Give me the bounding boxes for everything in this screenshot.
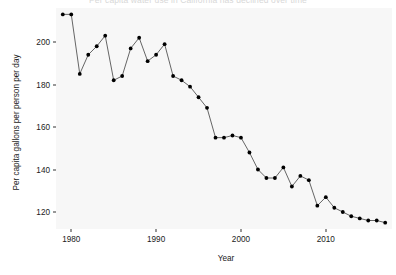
data-point [205, 106, 209, 110]
series-points [61, 12, 387, 224]
data-point [307, 178, 311, 182]
data-point [95, 44, 99, 48]
x-axis-title: Year [56, 254, 396, 263]
data-point [290, 185, 294, 189]
data-point [214, 136, 218, 140]
data-point [315, 204, 319, 208]
data-point [281, 165, 285, 169]
data-point [341, 210, 345, 214]
data-point [256, 168, 260, 172]
data-point [129, 46, 133, 50]
data-point [103, 34, 107, 38]
data-point [324, 195, 328, 199]
data-point [69, 12, 73, 16]
y-axis-tick-labels: 120140160180200 [18, 0, 50, 275]
data-point [383, 221, 387, 225]
data-point [366, 219, 370, 223]
data-point [171, 74, 175, 78]
y-axis-tick-label: 180 [18, 80, 50, 89]
data-point [137, 36, 141, 40]
data-point [163, 42, 167, 46]
data-point [61, 12, 65, 16]
data-point [188, 85, 192, 89]
x-axis-tick-mark [71, 229, 72, 232]
data-point [197, 95, 201, 99]
x-axis-tick-mark [240, 229, 241, 232]
y-axis-tick-label: 200 [18, 38, 50, 47]
data-point [265, 176, 269, 180]
y-axis-tick-label: 160 [18, 123, 50, 132]
data-point [222, 136, 226, 140]
data-point [154, 53, 158, 57]
data-point [231, 134, 235, 138]
chart-title: Per capita water use in California has d… [0, 0, 396, 6]
x-axis-tick-labels: 1980199020002010 [0, 235, 396, 249]
data-point [78, 72, 82, 76]
data-point [120, 74, 124, 78]
data-point [358, 216, 362, 220]
y-axis-tick-label: 120 [18, 208, 50, 217]
data-point [349, 214, 353, 218]
data-point [273, 176, 277, 180]
data-point [248, 151, 252, 155]
plot-panel [56, 8, 392, 229]
data-point [146, 59, 150, 63]
x-axis-tick-label: 2000 [232, 235, 250, 244]
y-axis-tick-label: 140 [18, 165, 50, 174]
x-axis-tick-mark [325, 229, 326, 232]
data-point [375, 219, 379, 223]
data-point [239, 136, 243, 140]
data-point [332, 206, 336, 210]
x-axis-tick-label: 1980 [62, 235, 80, 244]
line-series-svg [56, 8, 392, 229]
data-point [112, 78, 116, 82]
data-point [86, 53, 90, 57]
x-axis-tick-label: 1990 [147, 235, 165, 244]
x-axis-tick-label: 2010 [317, 235, 335, 244]
x-axis-tick-mark [156, 229, 157, 232]
series-line [63, 14, 385, 222]
data-point [298, 174, 302, 178]
data-point [180, 78, 184, 82]
chart-container: Per capita water use in California has d… [0, 0, 396, 275]
